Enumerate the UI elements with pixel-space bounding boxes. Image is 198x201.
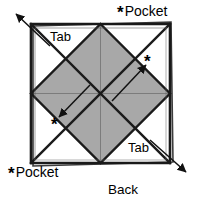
origami-fold-diagram: Tab Tab *Pocket *Pocket Back * *	[0, 0, 198, 201]
star-icon-top-right-inner: *	[144, 53, 151, 70]
star-icon-pocket-top-right: *	[117, 3, 124, 22]
label-pocket-top-right-text: Pocket	[125, 3, 168, 19]
star-icon-bottom-left-inner: *	[51, 116, 58, 133]
label-back-caption: Back	[108, 183, 138, 197]
label-pocket-bottom-left: *Pocket	[8, 165, 58, 182]
label-tab-bottom-right: Tab	[128, 141, 149, 154]
label-pocket-bottom-left-text: Pocket	[16, 164, 59, 180]
label-tab-top-left: Tab	[50, 30, 71, 43]
label-pocket-top-right: *Pocket	[117, 4, 167, 21]
star-icon-pocket-bottom-left: *	[8, 164, 15, 183]
